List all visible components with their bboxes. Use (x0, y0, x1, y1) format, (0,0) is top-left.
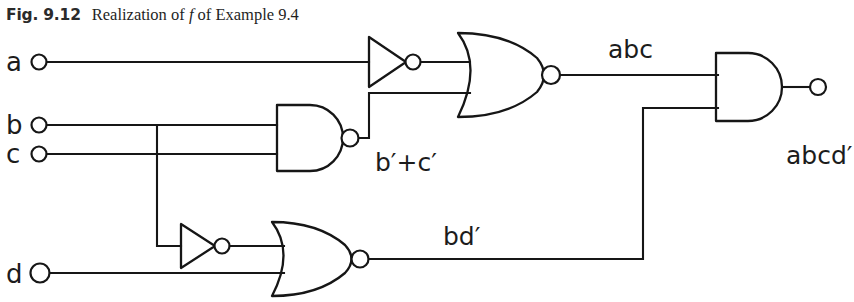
signal-label-abcdprime: abcd′ (786, 141, 853, 170)
nand-bc-bubble (342, 130, 359, 147)
input-terminal-b[interactable] (32, 118, 47, 133)
inverter-b-bubble (215, 239, 230, 254)
input-label-d: d (6, 259, 23, 289)
wire-b-branch-to-inverter-b (157, 125, 181, 246)
and-out-body (716, 53, 782, 121)
input-label-c: c (6, 139, 20, 169)
nor-bottom-bubble (352, 251, 369, 268)
nor-top-body (458, 33, 544, 117)
wire-nor-bottom-to-and (369, 108, 718, 259)
input-terminal-d[interactable] (31, 264, 50, 283)
nor-bottom-body (272, 222, 352, 296)
figure-root: Fig. 9.12 Realization of f of Example 9.… (0, 0, 854, 302)
nor-top-bubble (542, 66, 560, 84)
signal-label-bdprime: bd′ (443, 222, 481, 251)
nand-bc-body (277, 105, 343, 171)
input-terminal-a[interactable] (32, 55, 47, 70)
output-terminal[interactable] (810, 79, 826, 95)
signal-label-bprime-plus-cprime: b′+c′ (375, 148, 437, 177)
inverter-b-body (181, 224, 215, 268)
wire-nand-to-nor-top (359, 93, 470, 138)
inverter-a-body (369, 37, 406, 87)
input-label-a: a (6, 47, 22, 77)
input-label-b: b (6, 110, 23, 140)
signal-label-abc: abc (608, 35, 653, 64)
logic-circuit-diagram: a b c d (0, 0, 854, 302)
input-terminal-c[interactable] (32, 147, 47, 162)
inverter-a-bubble (406, 55, 421, 70)
